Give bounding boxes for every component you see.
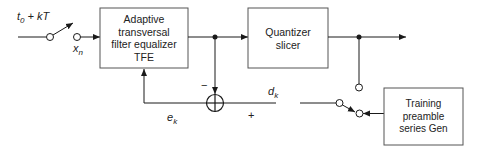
mode-switch-arm bbox=[343, 105, 356, 112]
tfe-label-line-3: filter equalizer bbox=[100, 38, 188, 51]
training-label-line-1: Training bbox=[384, 98, 463, 111]
quantizer-label-line-1: Quantizer bbox=[248, 26, 328, 39]
plus-sign: + bbox=[248, 109, 254, 121]
quantizer-label: Quantizer slicer bbox=[248, 26, 328, 51]
tfe-label-line-4: TFE bbox=[100, 51, 188, 64]
ek-sub: k bbox=[173, 117, 177, 126]
xn-label: xn bbox=[73, 42, 83, 57]
sampler-contact-left bbox=[47, 34, 54, 41]
error-feedback-line bbox=[144, 69, 207, 103]
tfe-label: Adaptive transversal filter equalizer TF… bbox=[100, 13, 188, 63]
training-label-line-2: preamble bbox=[384, 111, 463, 124]
training-label-line-3: series Gen bbox=[384, 123, 463, 136]
dk-sub: k bbox=[274, 91, 278, 100]
dk-label: dk bbox=[268, 85, 278, 100]
sampling-time-rest: + kT bbox=[25, 10, 50, 22]
sampler-contact-right bbox=[74, 34, 81, 41]
quantizer-label-line-2: slicer bbox=[248, 39, 328, 52]
tfe-label-line-1: Adaptive bbox=[100, 13, 188, 26]
tfe-label-line-2: transversal bbox=[100, 26, 188, 39]
training-label: Training preamble series Gen bbox=[384, 98, 463, 136]
minus-sign: − bbox=[201, 79, 207, 91]
mode-switch-common bbox=[336, 100, 343, 107]
sampling-time-label: t0 + kT bbox=[17, 10, 49, 25]
xn-sub: n bbox=[79, 48, 83, 57]
training-contact bbox=[356, 110, 363, 117]
ek-label: ek bbox=[167, 111, 177, 126]
sampler-switch-arm bbox=[53, 23, 73, 35]
decision-contact bbox=[356, 84, 363, 91]
